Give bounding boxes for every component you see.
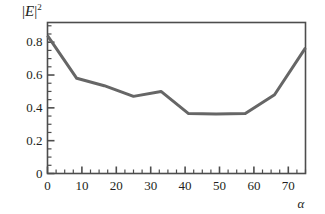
x-axis-tick-label: 50 [205,179,235,192]
x-axis-tick-label: 20 [101,179,131,192]
y-axis-tick-label: 0.6 [26,68,42,81]
y-axis-major-ticks [48,42,55,173]
x-axis-tick-label: 40 [170,179,200,192]
y-axis-title: |E|2 [22,3,42,19]
x-axis-tick-label: 70 [273,179,303,192]
y-axis-tick-label: 0.8 [26,35,42,48]
x-axis-tick-label: 10 [67,179,97,192]
data-series-line-0 [48,36,306,114]
figure-container: 00.20.40.60.8 010203040506070 |E|2 α [0,0,325,214]
data-series-group [48,36,306,114]
x-axis-tick-label: 30 [136,179,166,192]
y-axis-title-symbol: E [25,3,34,19]
y-axis-tick-label: 0.2 [26,134,42,147]
x-axis-tick-label: 60 [239,179,269,192]
x-axis-tick-label: 0 [33,179,63,192]
y-axis-title-exponent: 2 [37,2,42,12]
y-axis-tick-label: 0.4 [26,101,42,114]
x-axis-title: α [298,197,305,210]
